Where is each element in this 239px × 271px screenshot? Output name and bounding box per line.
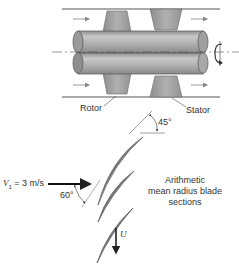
velocity-value: = 3 m/s (12, 178, 44, 188)
blade-speed-label: U (120, 230, 127, 239)
inlet-velocity-label: V1 = 3 m/s (3, 179, 44, 190)
shaft (73, 31, 208, 74)
outlet-angle-label: 45° (158, 118, 172, 127)
blade-sections-label: Arithmetic mean radius blade sections (140, 175, 230, 208)
blade-sections-line-1: Arithmetic (140, 175, 230, 186)
blade-sections (97, 137, 143, 263)
leader-lines (104, 96, 186, 107)
blade-sections-line-3: sections (140, 197, 230, 208)
inlet-angle-label: 60° (60, 191, 74, 200)
blade-sections-line-2: mean radius blade (140, 186, 230, 197)
cropped-caption (0, 264, 135, 271)
rotor-label: Rotor (80, 104, 102, 113)
stator-label: Stator (186, 106, 210, 115)
rotation-arrow-icon (215, 41, 223, 66)
axial-flow-compressor-diagram: Rotor Stator 45° 60° V1 = 3 m/s U Arithm… (0, 0, 239, 271)
